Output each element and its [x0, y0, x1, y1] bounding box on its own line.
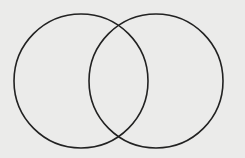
- venn-diagram: [0, 0, 245, 158]
- circle-set-b: [89, 14, 223, 148]
- venn-diagram-svg: [0, 0, 245, 158]
- circle-set-a: [14, 14, 148, 148]
